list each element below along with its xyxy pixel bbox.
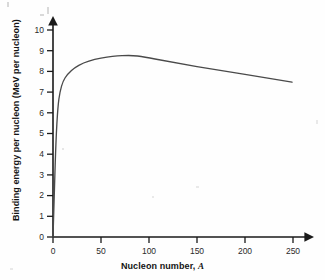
y-tick-label: 0	[28, 232, 44, 242]
figure-canvas: 0 1 2 3 4 5 6 7 8 9 10 0 50 100 150 200 …	[0, 0, 325, 280]
y-tick-label: 5	[28, 128, 44, 138]
x-tick-label: 0	[41, 246, 65, 256]
x-tick-label: 200	[233, 246, 257, 256]
x-tick-label: 250	[281, 246, 305, 256]
y-tick-label: 9	[28, 46, 44, 56]
y-tick-label: 8	[28, 66, 44, 76]
y-tick-label: 2	[28, 190, 44, 200]
y-axis-title: Binding energy per nucleon (MeV per nucl…	[11, 21, 21, 221]
y-axis-ticks	[47, 30, 53, 237]
y-tick-label: 4	[28, 149, 44, 159]
x-tick-label: 100	[137, 246, 161, 256]
x-tick-label: 150	[185, 246, 209, 256]
y-tick-label: 6	[28, 108, 44, 118]
x-tick-label: 50	[89, 246, 113, 256]
x-axis-title: Nucleon number, A	[0, 261, 325, 271]
y-tick-label: 3	[28, 170, 44, 180]
y-tick-label: 10	[24, 25, 44, 35]
x-axis-ticks	[53, 237, 293, 243]
x-axis-title-text: Nucleon number,	[121, 261, 198, 271]
binding-energy-curve	[53, 56, 292, 237]
binding-energy-plot	[0, 0, 325, 280]
x-axis-symbol: A	[198, 261, 204, 271]
y-tick-label: 1	[28, 211, 44, 221]
y-tick-label: 7	[28, 87, 44, 97]
